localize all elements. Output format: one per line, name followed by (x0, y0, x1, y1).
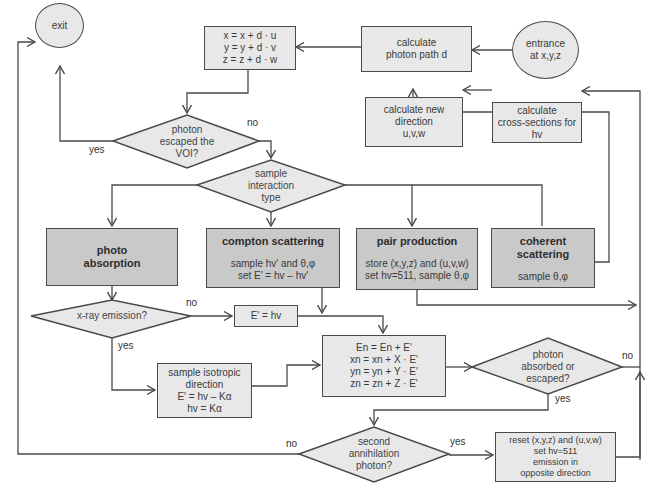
xray-yes-label: yes (118, 340, 134, 351)
calc-direction-line-3: u,v,w (403, 128, 426, 140)
sample-type-label: sample interaction type (227, 166, 315, 206)
entrance-line-1: entrance (526, 38, 565, 50)
entrance-line-2: at x,y,z (530, 50, 561, 62)
update-pos-x: x = x + d · u (224, 30, 277, 42)
calc-cross-line-2: cross-sections for (498, 117, 576, 129)
absorbed-escaped-label: photon absorbed or escaped? (505, 347, 591, 387)
calc-path-line-1: calculate (397, 37, 436, 49)
compton-title: compton scattering (222, 235, 324, 248)
photo-absorption-line-1: photo (97, 244, 128, 257)
energy-update-box: En = En + E' xn = xn + X · E' yn = yn + … (322, 335, 446, 397)
pair-production-box: pair production store (x,y,z) and (u,v,w… (356, 228, 478, 290)
compton-line-2: set E' = hv – hv' (238, 270, 308, 282)
sample-type-line-1: sample (255, 168, 287, 180)
photo-absorption-box: photo absorption (46, 228, 178, 286)
exit-label: exit (52, 20, 68, 32)
pair-production-title: pair production (377, 235, 458, 248)
calc-direction-line-1: calculate new (384, 104, 445, 116)
isotropic-line-4: hv = Kα (187, 403, 221, 415)
annihilation-line-2: annihilation (349, 448, 400, 460)
voi-no-label: no (247, 117, 258, 128)
pair-production-line-2: set hv=511, sample θ,φ (365, 270, 469, 282)
xray-no-label: no (186, 297, 197, 308)
update-pos-y: y = y + d · v (224, 42, 276, 54)
escaped-voi-line-3: VOI? (176, 148, 199, 160)
energy-update-zn: zn = zn + Z · E' (350, 378, 418, 390)
entrance-node: entrance at x,y,z (512, 21, 579, 79)
energy-update-yn: yn = yn + Y · E' (350, 366, 418, 378)
second-annihilation-label: second annihilation photon? (331, 434, 417, 474)
calc-cross-line-1: calculate (517, 105, 556, 117)
xray-emission-text: x-ray emission? (77, 310, 147, 322)
exit-node: exit (35, 3, 84, 48)
reset-line-1: reset (x,y,z) and (u,v,w) (509, 435, 602, 446)
coherent-title: coherent scattering (492, 235, 594, 261)
isotropic-line-2: direction (186, 379, 224, 391)
annihilation-line-1: second (358, 436, 390, 448)
calc-path-line-2: photon path d (386, 49, 447, 61)
update-position-box: x = x + d · u y = y + d · v z = z + d · … (204, 26, 296, 70)
sample-isotropic-box: sample isotropic direction E' = hv – Kα … (157, 363, 252, 418)
coherent-scattering-box: coherent scattering sample θ,φ (491, 228, 595, 288)
annihilation-no-label: no (286, 438, 297, 449)
absorbed-line-3: escaped? (526, 373, 569, 385)
photo-absorption-line-2: absorption (84, 257, 141, 270)
absorbed-no-label: no (622, 350, 633, 361)
update-pos-z: z = z + d · w (223, 54, 277, 66)
isotropic-line-1: sample isotropic (168, 367, 240, 379)
calc-photon-path-box: calculate photon path d (361, 26, 472, 72)
isotropic-line-3: E' = hv – Kα (177, 391, 231, 403)
e-equals-hv-box: E' = hv (234, 305, 298, 327)
escaped-voi-label: photon escaped the VOI? (143, 122, 231, 162)
xray-emission-label: x-ray emission? (62, 308, 162, 324)
energy-update-xn: xn = xn + X · E' (350, 354, 418, 366)
compton-scattering-box: compton scattering sample hv' and θ,φ se… (206, 228, 340, 288)
reset-box: reset (x,y,z) and (u,v,w) set hv=511 emi… (495, 432, 616, 482)
calc-cross-sections-box: calculate cross-sections for hv (492, 102, 582, 143)
calc-cross-line-3: hv (532, 129, 543, 141)
reset-line-4: opposite direction (520, 468, 591, 479)
annihilation-line-3: photon? (356, 460, 392, 472)
compton-line-1: sample hv' and θ,φ (231, 258, 316, 270)
absorbed-yes-label: yes (555, 393, 571, 404)
sample-type-line-3: type (262, 192, 281, 204)
e-equals-hv-text: E' = hv (251, 310, 282, 322)
sample-type-line-2: interaction (248, 180, 294, 192)
annihilation-yes-label: yes (450, 436, 466, 447)
reset-line-3: emission in (533, 457, 578, 468)
calc-direction-line-2: direction (395, 116, 433, 128)
voi-yes-label: yes (89, 144, 105, 155)
absorbed-line-2: absorbed or (521, 361, 574, 373)
absorbed-line-1: photon (533, 349, 564, 361)
pair-production-line-1: store (x,y,z) and (u,v,w) (366, 258, 469, 270)
coherent-line-1: sample θ,φ (518, 271, 568, 283)
escaped-voi-line-2: escaped the (160, 136, 215, 148)
reset-line-2: set hv=511 (534, 446, 578, 457)
calc-direction-box: calculate new direction u,v,w (365, 97, 463, 147)
energy-update-en: En = En + E' (356, 342, 412, 354)
escaped-voi-line-1: photon (172, 124, 203, 136)
